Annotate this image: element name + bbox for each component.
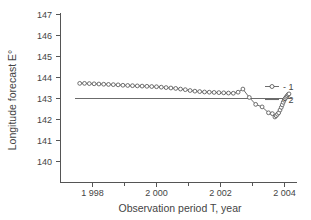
- legend-label-2: - 2: [283, 95, 294, 105]
- data-point: [179, 87, 183, 91]
- x-tick-label-2002: 2 002: [209, 188, 232, 198]
- x-tick-label-2004: 2 004: [273, 188, 296, 198]
- data-point: [260, 105, 264, 109]
- y-axis-title: Longitude forecast E°: [6, 50, 18, 151]
- data-point: [188, 89, 192, 93]
- data-point: [83, 81, 87, 85]
- data-point: [207, 90, 211, 94]
- x-axis-title: Observation period T, year: [119, 202, 242, 214]
- data-point: [131, 84, 135, 88]
- data-point: [121, 83, 125, 87]
- data-point: [231, 91, 235, 95]
- data-point: [140, 84, 144, 88]
- open-circle-icon: [270, 85, 274, 89]
- legend-label-1: - 1: [283, 82, 294, 92]
- data-point: [247, 96, 251, 100]
- data-point: [92, 82, 96, 86]
- data-point: [97, 82, 101, 86]
- data-point: [159, 85, 163, 89]
- y-tick-label-146: 146: [37, 31, 52, 41]
- data-point: [87, 82, 91, 86]
- data-point: [193, 89, 197, 93]
- data-point: [270, 112, 274, 116]
- data-point: [217, 91, 221, 95]
- data-point: [150, 85, 154, 89]
- data-point: [254, 102, 258, 106]
- data-point: [126, 84, 130, 88]
- data-point: [169, 86, 173, 90]
- data-point: [116, 83, 120, 87]
- data-point: [155, 85, 159, 89]
- y-tick-label-145: 145: [37, 52, 52, 62]
- data-point: [183, 88, 187, 92]
- data-point: [227, 91, 231, 95]
- y-tick-label-141: 141: [37, 136, 52, 146]
- data-point: [107, 83, 111, 87]
- data-point: [145, 84, 149, 88]
- y-tick-label-143: 143: [37, 94, 52, 104]
- data-point: [164, 86, 168, 90]
- data-point: [198, 90, 202, 94]
- y-tick-label-140: 140: [37, 157, 52, 167]
- data-point: [212, 91, 216, 95]
- x-tick-label-2000: 2 000: [145, 188, 168, 198]
- data-point: [78, 81, 82, 85]
- data-point: [174, 87, 178, 91]
- longitude-forecast-chart: 147 146 145 144 143 142 141 140 1 998 2 …: [0, 0, 311, 220]
- y-tick-label-147: 147: [37, 10, 52, 20]
- y-tick-label-144: 144: [37, 73, 52, 83]
- data-point: [222, 91, 226, 95]
- data-point: [203, 90, 207, 94]
- data-point: [267, 111, 271, 115]
- data-point: [102, 82, 106, 86]
- data-point: [135, 84, 139, 88]
- chart-figure: 147 146 145 144 143 142 141 140 1 998 2 …: [0, 0, 311, 220]
- data-point: [241, 87, 245, 91]
- data-point: [111, 83, 115, 87]
- x-tick-label-1998: 1 998: [81, 188, 104, 198]
- data-point: [236, 90, 240, 94]
- y-tick-label-142: 142: [37, 115, 52, 125]
